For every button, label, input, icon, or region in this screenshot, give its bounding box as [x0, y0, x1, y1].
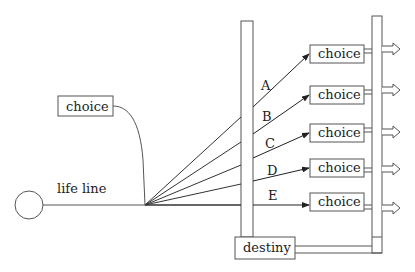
svg-text:choice: choice [318, 87, 361, 102]
right-pillar [372, 16, 382, 253]
branch-lines-behind [145, 117, 241, 205]
branch-arrow-c [253, 133, 309, 158]
hollow-arrow-icon [382, 84, 400, 96]
side-choice-node: choice [58, 96, 113, 116]
svg-text:choice: choice [318, 194, 361, 209]
hollow-arrow-icon [382, 163, 400, 175]
destiny-return-band [295, 246, 382, 253]
hollow-arrow-icon [382, 126, 400, 138]
branch-arrows [253, 54, 309, 205]
branch-label-c: C [265, 136, 275, 151]
hollow-arrow-icon [382, 43, 400, 55]
lifeline-label: life line [57, 181, 107, 196]
choice-node-b: choice [310, 86, 364, 104]
svg-text:choice: choice [318, 46, 361, 61]
branch-label-a: A [260, 78, 271, 93]
choice-node-d: choice [310, 159, 364, 177]
svg-text:choice: choice [318, 125, 361, 140]
hollow-arrow-icon [382, 202, 400, 214]
life-choices-diagram: life line choice A B C D E choice choice [0, 0, 415, 272]
branch-label-b: B [262, 109, 272, 124]
choice-node-a: choice [310, 45, 364, 63]
start-circle [15, 191, 43, 219]
choice-node-c: choice [310, 124, 364, 142]
choice-connectors [364, 49, 372, 209]
side-choice-connector [113, 106, 145, 205]
svg-text:choice: choice [318, 160, 361, 175]
destiny-label: destiny [243, 240, 291, 255]
destiny-node: destiny [235, 237, 295, 259]
branch-label-e: E [268, 188, 278, 203]
branch-arrow-d [253, 168, 309, 181]
choice-node-e: choice [310, 193, 364, 211]
branch-label-d: D [267, 163, 277, 178]
side-choice-label: choice [66, 99, 109, 114]
outgoing-hollow-arrows [382, 43, 400, 214]
left-pillar [241, 21, 253, 237]
